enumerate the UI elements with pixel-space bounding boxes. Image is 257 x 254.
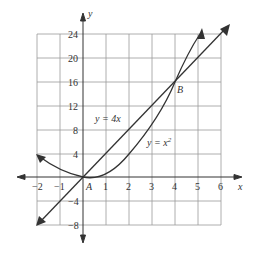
svg-text:4: 4 — [73, 149, 78, 160]
svg-text:4: 4 — [172, 181, 177, 192]
svg-text:12: 12 — [68, 101, 78, 112]
svg-text:−4: −4 — [68, 196, 79, 207]
point-b-label: B — [177, 84, 183, 95]
x-axis-label: x — [237, 181, 243, 192]
svg-text:20: 20 — [68, 53, 78, 64]
point-a-label: A — [85, 181, 93, 192]
svg-text:1: 1 — [103, 181, 108, 192]
graph: −2 −1 1 2 3 4 5 6 24 20 16 12 8 4 −4 −8 … — [0, 0, 257, 254]
x-tick-labels: −2 −1 1 2 3 4 5 6 — [32, 181, 223, 192]
y-axis-label: y — [87, 8, 93, 19]
parabola-y-x2 — [36, 28, 205, 178]
line-label: y = 4x — [94, 113, 121, 124]
svg-text:8: 8 — [73, 125, 78, 136]
svg-text:24: 24 — [68, 29, 78, 40]
line-y-4x — [36, 24, 230, 226]
svg-text:3: 3 — [149, 181, 154, 192]
svg-text:−2: −2 — [32, 181, 43, 192]
svg-text:−8: −8 — [68, 220, 79, 231]
svg-text:2: 2 — [126, 181, 131, 192]
svg-text:16: 16 — [68, 77, 78, 88]
svg-text:6: 6 — [218, 181, 223, 192]
svg-text:−1: −1 — [54, 181, 65, 192]
parabola-label: y = x2 — [146, 136, 172, 148]
svg-text:5: 5 — [195, 181, 200, 192]
